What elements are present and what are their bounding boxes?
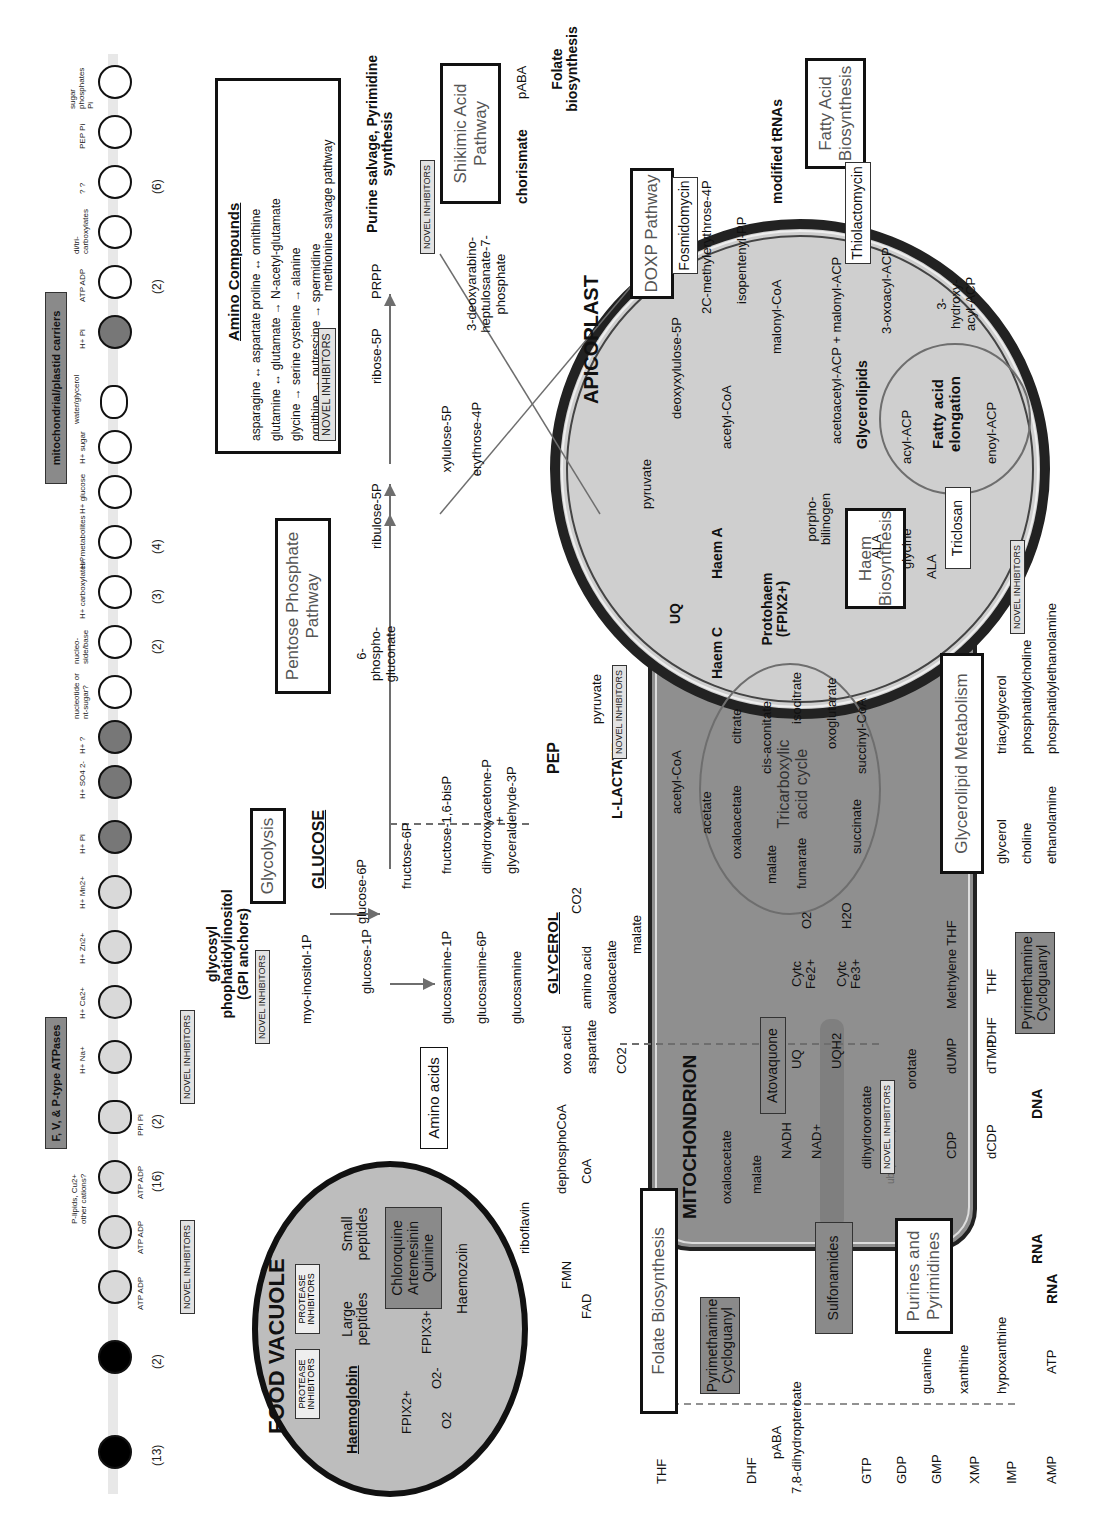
p-type-atpase bbox=[98, 1160, 132, 1194]
protease-inhibitor-1: PROTEASE INHIBITORS bbox=[295, 1349, 320, 1419]
food-vacuole-title: FOOD VACUOLE bbox=[265, 1258, 289, 1434]
apicoplast-title: APICOPLAST bbox=[580, 275, 602, 404]
mito-carrier bbox=[98, 115, 132, 149]
pyrimethamine-box-2: Pyrimethamine Cycloguanyl bbox=[1015, 932, 1055, 1034]
ppp-box: Pentose Phosphate Pathway bbox=[275, 518, 331, 694]
mito-carrier bbox=[98, 65, 132, 99]
glycerol-label: GLYCEROL bbox=[545, 912, 562, 994]
purines-box: Purines and Pyrimidines bbox=[895, 1218, 953, 1334]
carriers-title: mitochondrial/plastid carriers bbox=[45, 292, 67, 484]
novel-inhibitors-badge: NOVEL INHIBITORS bbox=[180, 1220, 195, 1314]
fosmidomycin-box: Fosmidomycin bbox=[672, 177, 698, 274]
shikimate-box: Shikimic Acid Pathway bbox=[440, 63, 501, 204]
amino-acids-box: Amino acids bbox=[420, 1047, 448, 1149]
pyrophosphatase bbox=[98, 1100, 132, 1134]
mito-carrier bbox=[98, 265, 132, 299]
gpi-anchors-label: glycosyl phophatidylinositol (GPI anchor… bbox=[205, 879, 251, 1029]
ion-carrier bbox=[98, 985, 132, 1019]
solute-carrier bbox=[98, 675, 132, 709]
pep-label: PEP bbox=[545, 742, 563, 774]
mito-carrier bbox=[98, 165, 132, 199]
doxp-box: DOXP Pathway bbox=[630, 168, 674, 299]
abc-count-2: (2) bbox=[150, 1354, 164, 1369]
ion-carrier bbox=[98, 765, 132, 799]
abc-count-1: (13) bbox=[150, 1445, 164, 1466]
amino-compounds-box: Amino Compounds asparagine ↔ aspartate p… bbox=[215, 78, 341, 454]
solute-carrier bbox=[98, 430, 132, 464]
ion-carrier bbox=[98, 720, 132, 754]
f-type-atpase bbox=[98, 1270, 132, 1304]
glycolysis-box: Glycolysis bbox=[250, 808, 286, 904]
ion-carrier bbox=[98, 930, 132, 964]
chloroquine-drug-box: Chloroquine Artemesinin Quinine bbox=[385, 1207, 442, 1309]
mitochondrion-title: MITOCHONDRION bbox=[680, 1055, 701, 1219]
atovaquone-box: Atovaquone bbox=[760, 1017, 786, 1114]
metabolic-pathway-diagram: F, V, & P-type ATPases mitochondrial/pla… bbox=[0, 0, 1108, 1514]
mito-carrier bbox=[98, 315, 132, 349]
haemoglobin-label: Haemoglobin bbox=[345, 1365, 360, 1454]
ion-carrier bbox=[98, 820, 132, 854]
protease-inhibitor-2: PROTEASE INHIBITORS bbox=[295, 1264, 320, 1334]
abc-transporter-2 bbox=[98, 1340, 132, 1374]
glycerolipid-box: Glycerolipid Metabolism bbox=[940, 653, 984, 874]
ion-carrier bbox=[98, 1040, 132, 1074]
solute-carrier bbox=[98, 575, 132, 609]
v-type-atpase bbox=[98, 1215, 132, 1249]
fatty-acid-box: Fatty Acid Biosynthesis bbox=[805, 58, 866, 169]
sulfonamides-box: Sulfonamides bbox=[815, 1222, 853, 1334]
mito-carrier bbox=[98, 215, 132, 249]
aquaporin bbox=[100, 385, 128, 419]
solute-carrier bbox=[98, 625, 132, 659]
atpases-title: F, V, & P-type ATPases bbox=[45, 1017, 67, 1149]
novel-inhibitors-badge: NOVEL INHIBITORS bbox=[180, 1010, 195, 1104]
thiolactomycin-box: Thiolactomycin bbox=[845, 162, 871, 264]
solute-carrier bbox=[98, 525, 132, 559]
glucose-label: GLUCOSE bbox=[310, 810, 328, 889]
abc-transporter-1 bbox=[98, 1435, 132, 1469]
pyrimethamine-box: Pyrimethamine Cycloguanyl bbox=[700, 1297, 740, 1394]
solute-carrier bbox=[98, 475, 132, 509]
folate-box: Folate Biosynthesis bbox=[640, 1188, 678, 1414]
ion-carrier bbox=[98, 875, 132, 909]
triclosan-box: Triclosan bbox=[945, 487, 971, 569]
